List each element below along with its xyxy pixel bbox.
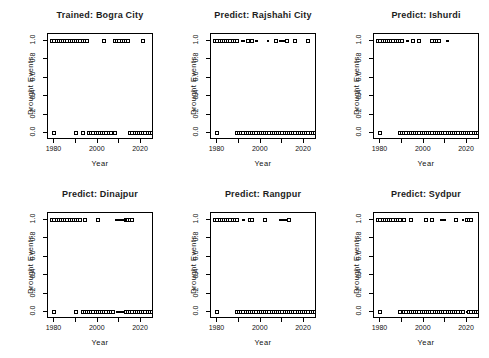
x-tick-mark xyxy=(260,139,261,143)
plot-area xyxy=(373,212,479,318)
data-point-no-drought xyxy=(74,310,78,314)
subplot-4: Predict: Dinajpur0.00.20.40.60.81.019802… xyxy=(0,179,163,358)
x-tick-mark xyxy=(216,139,217,143)
y-tick-mark xyxy=(369,95,373,96)
subplot-3: Predict: Ishurdi0.00.20.40.60.81.0198020… xyxy=(326,0,489,179)
x-tick-mark xyxy=(423,139,424,143)
x-tick-label: 2020 xyxy=(129,324,151,331)
data-point-drought xyxy=(141,39,145,43)
y-axis-label: Drought Events xyxy=(189,31,198,141)
y-axis-label: Drought Events xyxy=(26,31,35,141)
y-tick-mark xyxy=(206,95,210,96)
x-tick-label: 2000 xyxy=(412,324,434,331)
subplot-title: Predict: Rajshahi City xyxy=(210,10,316,20)
x-tick-mark xyxy=(238,139,239,143)
data-point-drought xyxy=(96,218,100,222)
subplot-title: Predict: Rangpur xyxy=(210,189,316,199)
y-tick-mark xyxy=(369,114,373,115)
x-tick-mark xyxy=(75,139,76,143)
x-tick-mark xyxy=(401,139,402,143)
subplot-6: Predict: Sydpur0.00.20.40.60.81.01980200… xyxy=(326,179,489,358)
data-dash-segment xyxy=(267,40,269,42)
x-tick-label: 2020 xyxy=(129,145,151,152)
x-tick-label: 2020 xyxy=(292,324,314,331)
x-tick-mark xyxy=(260,318,261,322)
data-point-no-drought xyxy=(74,131,78,135)
x-tick-mark xyxy=(53,139,54,143)
x-axis-label: Year xyxy=(373,159,479,168)
y-tick-mark xyxy=(206,256,210,257)
data-point-no-drought xyxy=(150,131,153,135)
x-tick-label: 2000 xyxy=(86,324,108,331)
y-tick-mark xyxy=(43,256,47,257)
x-tick-label: 1980 xyxy=(368,324,390,331)
y-tick-mark xyxy=(206,293,210,294)
data-point-drought xyxy=(250,39,254,43)
data-point-no-drought xyxy=(52,310,56,314)
x-tick-mark xyxy=(423,318,424,322)
data-point-drought xyxy=(250,218,254,222)
y-tick-mark xyxy=(369,256,373,257)
x-tick-mark xyxy=(97,318,98,322)
y-tick-mark xyxy=(369,274,373,275)
data-point-no-drought xyxy=(378,131,382,135)
y-tick-mark xyxy=(43,114,47,115)
data-point-drought xyxy=(402,218,406,222)
x-tick-label: 2000 xyxy=(249,145,271,152)
y-tick-mark xyxy=(369,58,373,59)
data-dash-segment xyxy=(279,40,285,42)
data-point-drought xyxy=(469,218,473,222)
x-tick-mark xyxy=(379,139,380,143)
data-point-no-drought xyxy=(215,131,219,135)
y-tick-mark xyxy=(206,132,210,133)
x-tick-mark xyxy=(140,318,141,322)
y-tick-mark xyxy=(43,311,47,312)
subplot-1: Trained: Bogra City0.00.20.40.60.81.0198… xyxy=(0,0,163,179)
data-point-no-drought xyxy=(476,310,479,314)
plot-area xyxy=(210,212,316,318)
x-tick-mark xyxy=(303,318,304,322)
data-point-drought xyxy=(83,218,87,222)
subplot-title: Predict: Dinajpur xyxy=(47,189,153,199)
data-point-drought xyxy=(437,39,441,43)
data-point-drought xyxy=(85,39,89,43)
data-point-no-drought xyxy=(113,131,117,135)
subplot-5: Predict: Rangpur0.00.20.40.60.81.0198020… xyxy=(163,179,326,358)
data-point-drought xyxy=(263,218,267,222)
y-tick-mark xyxy=(43,293,47,294)
y-tick-mark xyxy=(43,95,47,96)
data-point-drought xyxy=(409,218,413,222)
subplot-title: Predict: Sydpur xyxy=(373,189,479,199)
data-dash-segment xyxy=(446,40,448,42)
y-tick-mark xyxy=(206,311,210,312)
y-tick-mark xyxy=(43,274,47,275)
y-tick-mark xyxy=(206,77,210,78)
x-axis-label: Year xyxy=(373,338,479,347)
y-tick-mark xyxy=(206,219,210,220)
x-tick-label: 1980 xyxy=(205,324,227,331)
y-tick-mark xyxy=(206,114,210,115)
data-dash-segment xyxy=(440,219,446,221)
data-point-no-drought xyxy=(315,131,316,135)
x-tick-mark xyxy=(466,318,467,322)
y-axis-label: Drought Events xyxy=(189,210,198,320)
y-tick-mark xyxy=(43,58,47,59)
y-tick-mark xyxy=(206,274,210,275)
y-axis-label: Drought Events xyxy=(352,31,361,141)
y-tick-mark xyxy=(369,40,373,41)
data-point-no-drought xyxy=(152,310,153,314)
x-tick-mark xyxy=(140,139,141,143)
y-tick-mark xyxy=(206,40,210,41)
data-point-drought xyxy=(424,218,428,222)
plot-area xyxy=(210,33,316,139)
data-point-no-drought xyxy=(378,310,382,314)
data-point-no-drought xyxy=(215,310,219,314)
data-point-drought xyxy=(126,39,130,43)
y-axis-label: Drought Events xyxy=(352,210,361,320)
data-point-no-drought xyxy=(461,310,465,314)
y-tick-mark xyxy=(369,293,373,294)
x-tick-label: 1980 xyxy=(42,324,64,331)
data-point-drought xyxy=(411,39,415,43)
data-point-drought xyxy=(454,218,458,222)
data-point-drought xyxy=(130,218,134,222)
